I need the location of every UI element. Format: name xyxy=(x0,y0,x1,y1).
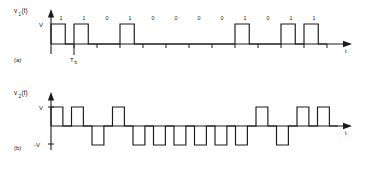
panel-b-time-axis-arrow xyxy=(343,123,352,129)
panel-a-bit-period-marker: T b xyxy=(70,45,78,65)
bit-label: 1 xyxy=(244,15,247,21)
panel-b-time-axis-label: t xyxy=(345,130,347,136)
panel-b: v 2 (t) V -V t (b) xyxy=(14,89,352,151)
panel-b-label: (b) xyxy=(14,145,21,151)
bit-label: 0 xyxy=(221,15,224,21)
panel-b-signal-arg: (t) xyxy=(22,89,28,97)
panel-a-label: (a) xyxy=(14,57,21,63)
figure-root: v 1 (t) V t xyxy=(0,0,380,169)
panel-a-signal-label: v 1 (t) xyxy=(14,7,28,17)
panel-b-signal-label: v 2 (t) xyxy=(14,89,28,99)
bit-label: 0 xyxy=(198,15,201,21)
panel-b-amplitude-label: V xyxy=(39,105,43,111)
bit-label: 0 xyxy=(267,15,270,21)
bit-label: 0 xyxy=(106,15,109,21)
panel-a-bit-labels: 1 1 0 1 0 0 0 0 1 0 1 1 xyxy=(60,15,316,21)
panel-a-amplitude-label: V xyxy=(39,22,43,28)
panel-a-signal-arg: (t) xyxy=(22,7,28,15)
panel-b-vertical-axis-arrow xyxy=(48,92,54,101)
bit-label: 0 xyxy=(152,15,155,21)
panel-a: v 1 (t) V t xyxy=(14,7,352,65)
panel-b-negative-amplitude-label: -V xyxy=(34,142,40,148)
bit-label: 1 xyxy=(60,15,63,21)
panel-a-time-axis-label: t xyxy=(345,48,347,54)
panel-a-time-axis-arrow xyxy=(343,41,352,47)
panel-a-waveform xyxy=(51,24,327,44)
bit-label: 1 xyxy=(129,15,132,21)
bit-label: 1 xyxy=(83,15,86,21)
waveform-figure: v 1 (t) V t xyxy=(0,0,380,169)
panel-a-signal-symbol: v xyxy=(14,7,18,14)
panel-a-bit-period-label: T xyxy=(70,57,74,63)
panel-b-time-axis xyxy=(51,123,352,129)
bit-label: 1 xyxy=(290,15,293,21)
panel-a-bit-period-subscript: b xyxy=(75,60,78,65)
panel-a-axis-ticks xyxy=(74,44,327,48)
panel-b-signal-symbol: v xyxy=(14,89,18,96)
panel-a-vertical-axis-arrow xyxy=(48,9,54,18)
bit-label: 0 xyxy=(175,15,178,21)
bit-label: 1 xyxy=(313,15,316,21)
